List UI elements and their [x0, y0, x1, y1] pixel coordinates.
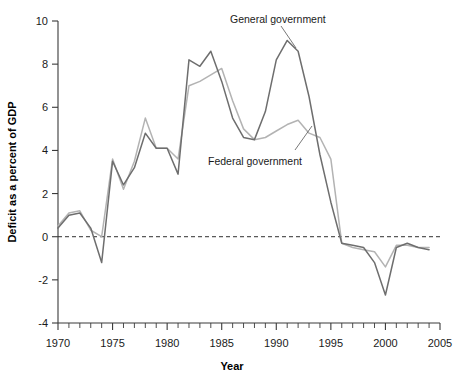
series-line-general-government [58, 40, 429, 295]
x-tick-label: 1975 [100, 337, 124, 349]
y-tick-label: 8 [42, 58, 48, 70]
y-axis-ticks: 1086420-2-4 [36, 15, 58, 329]
x-tick-label: 2000 [373, 337, 397, 349]
x-tick-label: 1980 [155, 337, 179, 349]
series-lines [58, 40, 429, 295]
chart-container: 1086420-2-4 1970197519801985199019952000… [0, 0, 457, 383]
x-tick-label: 1970 [46, 337, 70, 349]
x-tick-label: 1990 [264, 337, 288, 349]
annotation-general-government: General government [230, 13, 326, 25]
x-tick-label: 1985 [209, 337, 233, 349]
y-tick-label: 10 [36, 15, 48, 27]
annotation-federal-government: Federal government [208, 155, 302, 167]
y-tick-label: 4 [42, 144, 48, 156]
y-tick-label: 0 [42, 231, 48, 243]
x-tick-label: 2005 [428, 337, 452, 349]
x-axis-title: Year [220, 360, 244, 372]
y-tick-label: 6 [42, 101, 48, 113]
y-tick-label: -2 [38, 274, 48, 286]
deficit-line-chart: 1086420-2-4 1970197519801985199019952000… [0, 0, 457, 383]
general-government-leader-line [281, 26, 296, 48]
x-axis-ticks: 19701975198019851990199520002005 [46, 323, 452, 349]
y-tick-label: -4 [38, 317, 48, 329]
federal-government-leader-line [295, 126, 312, 150]
y-tick-label: 2 [42, 188, 48, 200]
y-axis-title: Deficit as a percent of GDP [6, 101, 18, 242]
x-axis-minor-ticks [69, 323, 429, 328]
x-tick-label: 1995 [319, 337, 343, 349]
